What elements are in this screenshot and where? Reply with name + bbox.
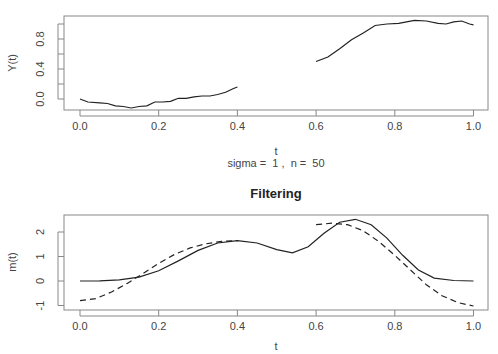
series-line — [316, 223, 473, 306]
bottom-title: Filtering — [250, 186, 301, 201]
y-tick-label: 2 — [34, 229, 46, 235]
series-line — [80, 87, 237, 108]
top-y-label: Y(t) — [6, 54, 18, 72]
x-tick-label: 0.6 — [308, 120, 323, 132]
x-tick-label: 0.2 — [151, 120, 166, 132]
top-plot-frame — [64, 16, 488, 110]
top-panel: 0.00.40.8 0.00.20.40.60.81.0 Y(t) t sigm… — [6, 16, 488, 169]
x-tick-label: 1.0 — [466, 120, 481, 132]
bottom-y-axis: -1012 — [34, 229, 64, 310]
top-y-axis: 0.00.40.8 — [34, 24, 64, 107]
x-tick-label: 0.4 — [230, 320, 245, 332]
chart-figure: 0.00.40.8 0.00.20.40.60.81.0 Y(t) t sigm… — [0, 0, 498, 354]
top-x-label: t — [274, 145, 277, 157]
bottom-panel: Filtering -1012 0.00.20.40.60.81.0 m(t) … — [6, 186, 488, 352]
bottom-x-axis: 0.00.20.40.60.81.0 — [72, 310, 481, 332]
top-x-axis: 0.00.20.40.60.81.0 — [72, 110, 481, 132]
x-tick-label: 0.8 — [387, 320, 402, 332]
top-subtitle: sigma = 1 , n = 50 — [227, 157, 324, 169]
y-tick-label: 1 — [34, 253, 46, 259]
top-series — [80, 20, 474, 108]
series-line — [80, 219, 474, 281]
y-tick-label: 0.0 — [34, 91, 46, 106]
bottom-series — [80, 219, 474, 306]
x-tick-label: 0.2 — [151, 320, 166, 332]
bottom-plot-frame — [64, 215, 488, 310]
series-line — [316, 20, 473, 61]
bottom-y-label: m(t) — [6, 252, 18, 272]
x-tick-label: 0.6 — [308, 320, 323, 332]
bottom-x-label: t — [274, 340, 277, 352]
y-tick-label: 0 — [34, 278, 46, 284]
y-tick-label: -1 — [34, 301, 46, 311]
x-tick-label: 0.0 — [72, 120, 87, 132]
y-tick-label: 0.8 — [34, 31, 46, 46]
x-tick-label: 1.0 — [466, 320, 481, 332]
y-tick-label: 0.4 — [34, 61, 46, 76]
x-tick-label: 0.0 — [72, 320, 87, 332]
x-tick-label: 0.4 — [230, 120, 245, 132]
x-tick-label: 0.8 — [387, 120, 402, 132]
